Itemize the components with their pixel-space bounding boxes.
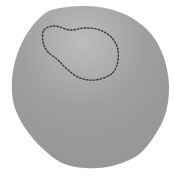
figure-canvas: [0, 0, 175, 176]
blob-body: [12, 6, 169, 168]
